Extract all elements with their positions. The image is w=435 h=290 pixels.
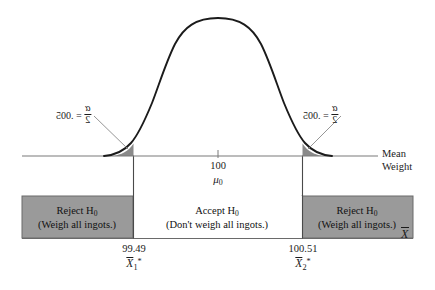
center-value-label: 100 [210,160,226,172]
accept-region-label: Accept H0 (Don't weigh all ingots.) [166,205,268,230]
reject-right-line1-text: Reject H [337,205,374,216]
reject-left-line2: (Weigh all ingots.) [38,219,116,231]
normal-curve [104,18,332,156]
alpha-value-left: = .005 [56,110,82,121]
accept-line1: Accept H0 [166,205,268,219]
x-bar-glyph-left: X [126,257,133,270]
reject-right-sub: 0 [374,209,378,218]
accept-line1-text: Accept H [195,205,235,216]
alpha-fraction-right: α 2 [331,103,338,125]
reject-left-line1-text: Reject H [57,205,94,216]
mu-subscript: 0 [219,178,223,187]
alpha-value-right: = .005 [303,110,329,121]
critical-symbol-left: X1* [126,257,141,272]
alpha-annotation-left: α 2 = .005 [56,103,91,125]
reject-region-label-left: Reject H0 (Weigh all ingots.) [38,205,116,230]
x-bar-glyph-right: X [295,257,302,270]
alpha-fraction-left: α 2 [84,103,91,125]
x-bar-axis-symbol: X [401,228,408,241]
reject-left-sub: 0 [94,209,98,218]
axis-title-line2: Weight [382,161,412,174]
critical-value-right: 100.51 [289,243,318,255]
leader-line-left [94,116,128,149]
alpha-numerator-left: α [84,103,91,113]
mu-zero-label: μ0 [213,173,222,188]
critical-right-superscript: * [307,257,311,266]
accept-line2: (Don't weigh all ingots.) [166,219,268,231]
alpha-denominator-left: 2 [84,115,91,125]
critical-symbol-right: X2* [295,257,310,272]
reject-right-line2: (Weigh all ingots.) [318,219,396,231]
reject-region-label-right: Reject H0 (Weigh all ingots.) [318,205,396,230]
figure-canvas [0,0,435,290]
axis-title-line1: Mean [382,148,412,161]
alpha-numerator-right: α [331,103,338,113]
reject-left-line1: Reject H0 [38,205,116,219]
critical-value-left: 99.49 [122,243,146,255]
critical-left-superscript: * [138,257,142,266]
axis-title-mean-weight: Mean Weight [382,148,412,174]
alpha-denominator-right: 2 [331,115,338,125]
accept-sub: 0 [235,209,239,218]
alpha-annotation-right: α 2 = .005 [303,103,338,125]
x-bar-glyph: X [401,228,408,241]
reject-right-line1: Reject H0 [318,205,396,219]
hypothesis-test-figure: α 2 = .005 α 2 = .005 Mean Weight 100 μ0… [0,0,435,290]
